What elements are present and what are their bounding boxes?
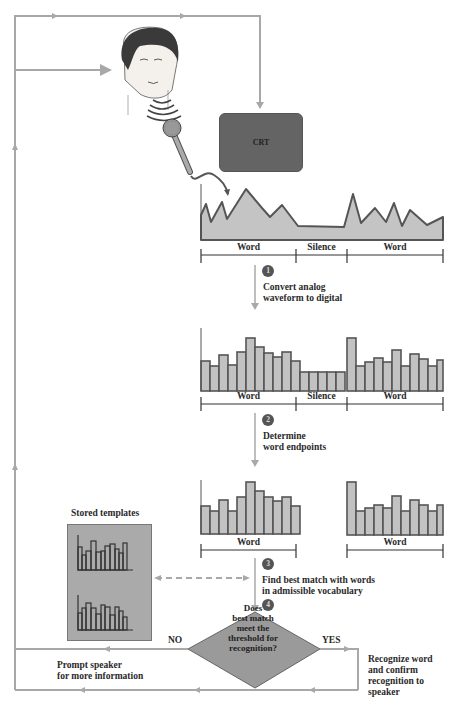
template-histograms [68, 525, 151, 640]
endpoint-word-2-bars [347, 482, 443, 535]
step-1-text: Convert analogwaveform to digital [263, 282, 342, 304]
no-action-text: Prompt speakerfor more information [57, 660, 143, 682]
signal-cable [191, 173, 228, 194]
analog-segment-word-2: Word [347, 242, 443, 252]
sound-waves-icon [147, 100, 181, 121]
analog-segment-silence: Silence [296, 242, 347, 252]
step-1-badge: 1 [262, 265, 274, 277]
yes-action-text: Recognize wordand confirm recognition to… [368, 654, 433, 698]
step-3-text: Find best match with wordsin admissible … [262, 575, 375, 597]
step-2-text: Determineword endpoints [263, 431, 326, 453]
endpoint-word-1-bars [201, 482, 300, 534]
speaker-head-illustration [121, 27, 178, 115]
crt-monitor: CRT [219, 113, 303, 172]
digital-segment-word-2: Word [347, 391, 443, 401]
step-2-badge: 2 [262, 414, 274, 426]
digital-bar-waveform [201, 338, 443, 391]
microphone-icon [163, 119, 190, 172]
digital-segment-silence: Silence [296, 391, 347, 401]
crt-label: CRT [253, 138, 270, 147]
digital-segment-word-1: Word [201, 391, 296, 401]
analog-waveform [201, 184, 443, 240]
decision-question: Does best match meet the threshold for r… [198, 603, 308, 653]
endpoint-segment-word-1: Word [201, 537, 296, 547]
decision-yes-label: YES [322, 635, 340, 646]
endpoint-segment-word-2: Word [347, 537, 443, 547]
analog-segment-word-1: Word [201, 242, 296, 252]
stored-templates-label: Stored templates [71, 508, 139, 519]
stored-templates-box [67, 524, 152, 641]
decision-no-label: NO [168, 635, 182, 646]
step-3-badge: 3 [262, 558, 274, 570]
